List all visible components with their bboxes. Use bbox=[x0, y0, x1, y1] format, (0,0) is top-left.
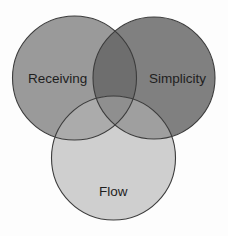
flow-label: Flow bbox=[99, 184, 128, 199]
receiving-label: Receiving bbox=[28, 71, 87, 86]
venn-diagram: Receiving Simplicity Flow bbox=[0, 0, 228, 236]
simplicity-label: Simplicity bbox=[149, 71, 206, 86]
venn-svg: Receiving Simplicity Flow bbox=[0, 0, 228, 236]
